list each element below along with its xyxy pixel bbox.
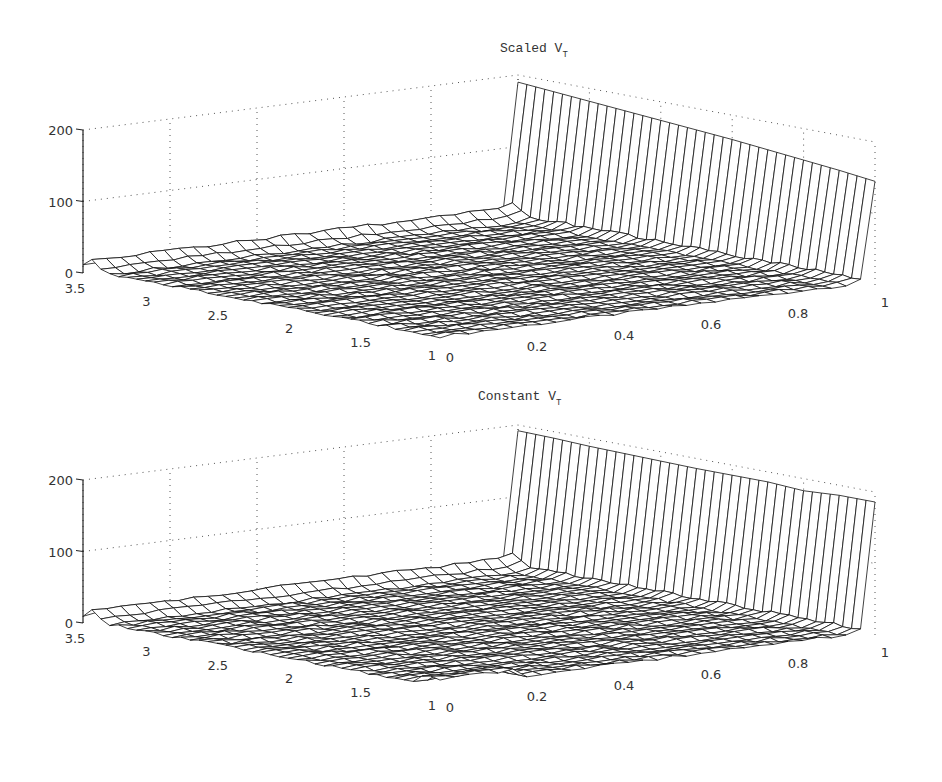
x-tick-label: 1	[881, 645, 889, 660]
z-axis: 0100200	[48, 123, 83, 281]
y-tick-label: 1.5	[350, 685, 371, 700]
z-tick-label: 200	[48, 473, 73, 488]
z-tick-label: 200	[48, 123, 73, 138]
y-tick-label: 3	[142, 644, 150, 659]
surface-plot-constant-vt: Constant VT010020011.522.533.500.20.40.6…	[48, 389, 889, 715]
x-tick-label: 0.6	[701, 317, 722, 332]
y-tick-label: 3.5	[65, 281, 86, 296]
x-tick-label: 0.8	[788, 656, 809, 671]
x-tick-label: 0.8	[788, 306, 809, 321]
x-tick-label: 0.6	[701, 667, 722, 682]
y-tick-label: 1	[428, 698, 436, 713]
chart-title: Scaled VT	[500, 41, 568, 60]
surface-plot-scaled-vt: Scaled VT010020011.522.533.500.20.40.60.…	[48, 41, 889, 365]
y-tick-label: 1.5	[350, 335, 371, 350]
z-tick-label: 100	[48, 195, 73, 210]
z-tick-label: 100	[48, 545, 73, 560]
x-tick-label: 0.2	[527, 689, 548, 704]
x-tick-label: 1	[881, 295, 889, 310]
z-axis: 0100200	[48, 473, 83, 631]
y-tick-label: 1	[428, 348, 436, 363]
figure: Scaled VT010020011.522.533.500.20.40.60.…	[0, 0, 942, 782]
x-tick-label: 0.4	[614, 328, 635, 343]
y-tick-label: 3.5	[65, 631, 86, 646]
x-tick-label: 0	[446, 700, 454, 715]
y-tick-label: 2	[285, 671, 293, 686]
z-tick-label: 0	[65, 266, 73, 281]
chart-title: Constant VT	[478, 389, 562, 408]
y-tick-label: 2.5	[207, 308, 228, 323]
x-tick-label: 0.4	[614, 678, 635, 693]
surface-mesh	[83, 431, 875, 682]
surface-mesh	[83, 82, 875, 338]
z-tick-label: 0	[65, 616, 73, 631]
y-tick-label: 2	[285, 321, 293, 336]
x-tick-label: 0	[446, 350, 454, 365]
y-tick-label: 2.5	[207, 658, 228, 673]
x-tick-label: 0.2	[527, 339, 548, 354]
y-tick-label: 3	[142, 294, 150, 309]
